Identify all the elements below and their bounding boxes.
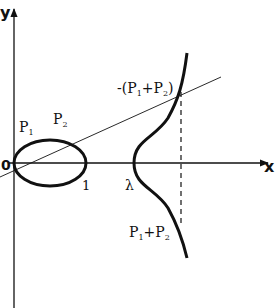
tick-label-lambda: λ: [125, 177, 134, 193]
point-label-p1: P1: [19, 119, 34, 137]
tick-label-one: 1: [82, 178, 90, 193]
y-axis-label: y: [0, 3, 11, 22]
x-axis-label: x: [264, 157, 275, 176]
secant-line: [0, 77, 221, 177]
point-label-p2: P2: [53, 111, 68, 129]
sum-label: P1+P2: [129, 224, 170, 242]
elliptic-curve-diagram: y x 0 1 λ P1 P2 -(P1+P2) P1+P2: [0, 0, 276, 308]
negated-sum-label: -(P1+P2): [117, 80, 173, 98]
origin-label: 0: [1, 157, 11, 173]
